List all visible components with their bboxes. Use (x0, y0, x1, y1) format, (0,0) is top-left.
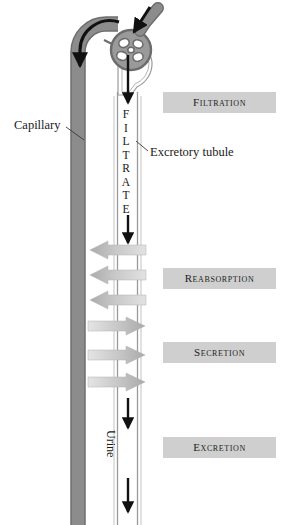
filtrate-letter: L (122, 135, 129, 149)
secretion-arrow (88, 317, 145, 335)
filtrate-label: F I L T R A T E (118, 108, 134, 216)
process-box-reabsorption-label: Reabsorption (185, 273, 255, 284)
excretory-tubule-label: Excretory tubule (150, 145, 234, 160)
filtrate-letter: A (122, 176, 130, 190)
filtrate-letter: I (124, 122, 128, 136)
reabsorption-arrows (90, 241, 146, 309)
secretion-arrow (88, 373, 145, 391)
filtrate-letter: E (122, 203, 129, 217)
process-box-filtration-label: Filtration (193, 97, 246, 108)
filtrate-letter: F (123, 108, 129, 122)
urine-label: Urine (103, 430, 118, 457)
secretion-arrow (88, 346, 145, 364)
process-box-filtration: Filtration (163, 92, 276, 113)
process-box-excretion: Excretion (163, 437, 276, 458)
process-box-secretion: Secretion (163, 342, 276, 363)
filtrate-letter: R (122, 162, 130, 176)
capillary-label: Capillary (14, 118, 61, 133)
filtrate-letter: T (122, 149, 129, 163)
filtrate-letter: T (122, 189, 129, 203)
process-box-excretion-label: Excretion (193, 442, 246, 453)
process-box-secretion-label: Secretion (194, 347, 245, 358)
secretion-arrows (88, 317, 145, 391)
process-box-reabsorption: Reabsorption (163, 268, 276, 289)
